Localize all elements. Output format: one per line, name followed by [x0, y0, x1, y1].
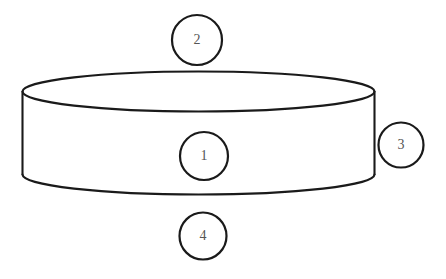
- callout-4[interactable]: 4: [180, 213, 227, 260]
- cylinder-diagram-svg: 1 2 3 4: [0, 0, 446, 279]
- callout-3-label: 3: [398, 137, 405, 152]
- callout-2[interactable]: 2: [172, 15, 222, 65]
- callout-3[interactable]: 3: [379, 123, 424, 168]
- callout-4-label: 4: [200, 228, 207, 243]
- callout-1-label: 1: [201, 148, 208, 163]
- diagram-canvas: 1 2 3 4: [0, 0, 446, 279]
- callout-1[interactable]: 1: [180, 132, 228, 180]
- callout-2-label: 2: [194, 32, 201, 47]
